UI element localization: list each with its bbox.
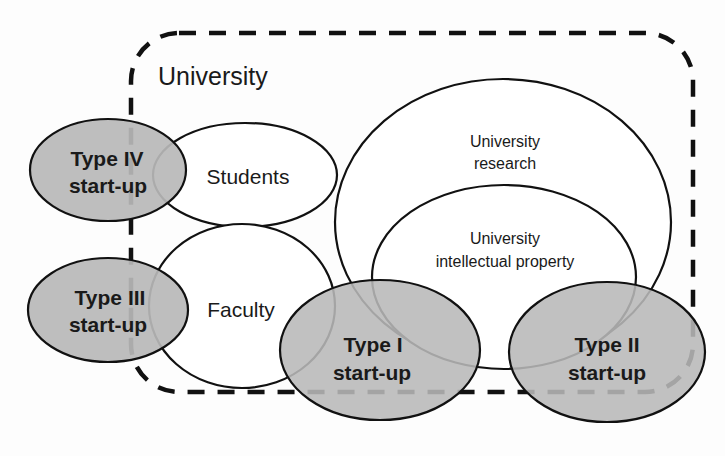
ip-label-line1: University	[470, 230, 540, 247]
type-i-startup-node: Type I start-up	[280, 280, 480, 420]
type-iv-label-line1: Type IV	[70, 147, 143, 170]
type-ii-startup-node: Type II start-up	[509, 282, 705, 422]
type-ii-label-line2: start-up	[568, 361, 646, 384]
type-iv-label-line2: start-up	[69, 174, 147, 197]
ip-label-line2: intellectual property	[436, 253, 575, 270]
university-label: University	[158, 62, 268, 90]
diagram-canvas: University Students Faculty University r…	[0, 0, 725, 456]
type-ii-label-line1: Type II	[575, 333, 640, 356]
research-label-line2: research	[474, 155, 536, 172]
type-iii-label-line2: start-up	[69, 313, 147, 336]
type-i-label-line2: start-up	[333, 361, 411, 384]
research-label-line1: University	[470, 133, 540, 150]
students-label: Students	[207, 165, 290, 188]
type-iii-startup-node: Type III start-up	[28, 258, 188, 362]
type-iii-label-line1: Type III	[75, 286, 146, 309]
type-i-label-line1: Type I	[343, 333, 402, 356]
faculty-label: Faculty	[207, 298, 275, 321]
type-iv-startup-node: Type IV start-up	[30, 119, 186, 221]
